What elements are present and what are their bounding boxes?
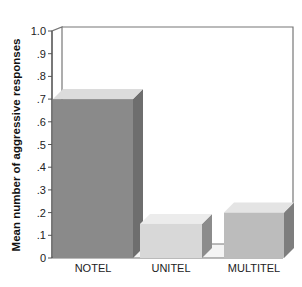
x-axis-labels: NOTELUNITELMULTITEL — [75, 262, 281, 274]
bar-chart: 0.1.2.3.4.5.6.7.8.91.0 NOTELUNITELMULTIT… — [0, 0, 302, 287]
y-tick-label: 0 — [40, 252, 46, 264]
y-tick-label: .5 — [37, 139, 46, 151]
y-tick-label: .1 — [37, 229, 46, 241]
x-category-label: UNITEL — [151, 262, 190, 274]
x-category-label: NOTEL — [75, 262, 112, 274]
y-tick-label: 1.0 — [31, 25, 46, 37]
y-tick-label: .7 — [37, 93, 46, 105]
x-category-label: MULTITEL — [228, 262, 280, 274]
bar-multitel — [224, 203, 294, 258]
y-tick-label: .6 — [37, 116, 46, 128]
bar-notel — [53, 89, 143, 258]
bar-unitel — [140, 214, 212, 258]
y-tick-label: .8 — [37, 70, 46, 82]
y-tick-label: .9 — [37, 48, 46, 60]
y-tick-label: .3 — [37, 184, 46, 196]
y-axis-label: Mean number of aggressive responses — [10, 39, 22, 252]
y-tick-label: .2 — [37, 207, 46, 219]
y-tick-label: .4 — [37, 161, 46, 173]
y-axis: 0.1.2.3.4.5.6.7.8.91.0 — [31, 25, 52, 264]
bars — [53, 89, 294, 258]
